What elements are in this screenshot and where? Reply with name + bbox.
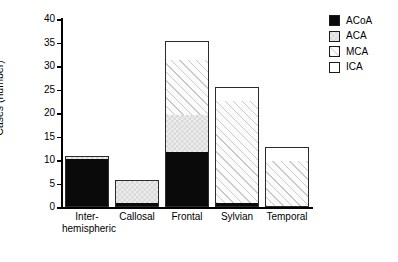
y-axis-tick-label: 40 xyxy=(44,14,55,24)
y-axis-tick xyxy=(57,43,62,45)
bar-frontal xyxy=(165,38,209,207)
bar-segment-acoa xyxy=(165,151,209,207)
legend-label: ACoA xyxy=(346,16,372,26)
bar-segment-aca xyxy=(65,156,109,158)
legend-label: ACA xyxy=(346,31,367,41)
bar-sylvian xyxy=(215,85,259,207)
y-axis-tick xyxy=(57,66,62,68)
x-axis-label: Frontal xyxy=(162,211,212,223)
y-axis-tick xyxy=(57,160,62,162)
bar-segment-mca xyxy=(215,100,259,203)
bar-temporal xyxy=(265,146,309,207)
bar-inter--hemispheric xyxy=(65,155,109,207)
legend-swatch-ica-icon xyxy=(329,62,340,73)
y-axis-tick-label: 35 xyxy=(44,38,55,48)
x-axis-line xyxy=(61,207,313,209)
plot-area: 0510152025303540 xyxy=(62,19,312,207)
bar-segment-mca xyxy=(165,59,209,115)
bar-segment-aca xyxy=(165,114,209,152)
bar-segment-ica xyxy=(165,41,209,60)
y-axis-tick xyxy=(57,207,62,209)
y-axis-tick-label: 30 xyxy=(44,61,55,71)
y-axis-tick xyxy=(57,137,62,139)
legend-item-mca[interactable]: MCA xyxy=(329,45,372,58)
bar-chart: Cases (number) 0510152025303540 Inter- h… xyxy=(0,0,398,262)
bar-callosal xyxy=(115,179,159,207)
legend-item-ica[interactable]: ICA xyxy=(329,61,372,74)
x-axis-label: Sylvian xyxy=(212,211,262,223)
x-axis-label: Inter- hemispheric xyxy=(62,211,112,234)
legend-label: ICA xyxy=(346,62,363,72)
bar-segment-ica xyxy=(265,147,309,161)
legend-swatch-acoa-icon xyxy=(329,15,340,26)
bar-segment-ica xyxy=(215,87,259,101)
legend: ACoAACAMCAICA xyxy=(329,14,372,74)
y-axis-tick-label: 20 xyxy=(44,108,55,118)
legend-swatch-aca-icon xyxy=(329,31,340,42)
legend-label: MCA xyxy=(346,47,368,57)
y-axis-tick-label: 25 xyxy=(44,85,55,95)
x-axis-label: Temporal xyxy=(262,211,312,223)
y-axis-tick-label: 10 xyxy=(44,155,55,165)
bar-segment-aca xyxy=(115,180,159,204)
bar-segment-mca xyxy=(265,160,309,207)
legend-item-aca[interactable]: ACA xyxy=(329,30,372,43)
y-axis-tick xyxy=(57,19,62,21)
y-axis-tick xyxy=(57,90,62,92)
y-axis-tick-label: 5 xyxy=(49,179,55,189)
x-axis-label: Callosal xyxy=(112,211,162,223)
legend-swatch-mca-icon xyxy=(329,46,340,57)
y-axis-tick-label: 15 xyxy=(44,132,55,142)
y-axis-tick xyxy=(57,184,62,186)
y-axis-tick xyxy=(57,113,62,115)
y-axis-title: Cases (number) xyxy=(0,60,5,135)
bar-segment-acoa xyxy=(65,158,109,207)
legend-item-acoa[interactable]: ACoA xyxy=(329,14,372,27)
y-axis-tick-label: 0 xyxy=(49,202,55,212)
